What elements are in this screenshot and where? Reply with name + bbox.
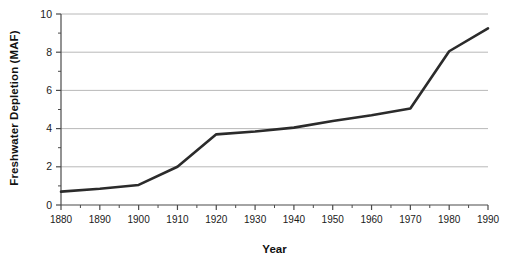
y-tick-label: 2 [46,160,52,172]
x-axis-tick-labels: 1880189019001910192019301940195019601970… [50,214,500,225]
x-tick-label: 1940 [283,214,306,225]
x-axis-ticks [61,205,488,210]
y-tick-label: 8 [46,46,52,58]
x-tick-label: 1980 [438,214,461,225]
x-tick-label: 1880 [50,214,73,225]
x-tick-label: 1920 [205,214,228,225]
x-tick-label: 1900 [128,214,151,225]
x-tick-label: 1950 [322,214,345,225]
y-axis-ticks [56,14,61,205]
x-tick-label: 1960 [360,214,383,225]
freshwater-depletion-chart: Freshwater Depletion (MAF) Year 0246810 … [0,0,509,267]
y-axis-tick-labels: 0246810 [40,8,52,211]
x-tick-label: 1930 [244,214,267,225]
y-tick-label: 6 [46,84,52,96]
y-tick-label: 0 [46,199,52,211]
plot-area: 0246810 18801890190019101920193019401950… [0,0,509,267]
x-tick-label: 1910 [166,214,189,225]
y-tick-label: 10 [40,8,52,20]
x-tick-label: 1890 [89,214,112,225]
x-tick-label: 1990 [477,214,500,225]
y-tick-label: 4 [46,122,52,134]
x-tick-label: 1970 [399,214,422,225]
